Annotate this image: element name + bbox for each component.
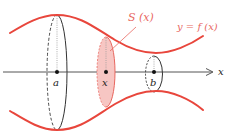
solid-of-revolution-diagram: S (x) y = f (x) x a x b xyxy=(0,0,230,139)
point-a-label: a xyxy=(53,77,59,88)
point-b-dot xyxy=(152,70,156,74)
function-label: y = f (x) xyxy=(176,21,218,32)
point-b-label: b xyxy=(150,77,156,88)
point-x-dot xyxy=(104,70,108,74)
diagram-canvas: S (x) y = f (x) x a x b xyxy=(0,0,230,139)
point-a-dot xyxy=(55,70,59,74)
axis-label: x xyxy=(218,66,224,77)
cross-section-label: S (x) xyxy=(128,11,154,24)
point-x-label: x xyxy=(102,77,108,88)
